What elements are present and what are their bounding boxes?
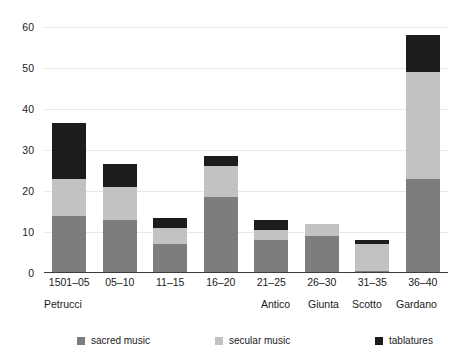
y-tick-label-0: 0 (28, 268, 34, 279)
bar-26-30[interactable] (305, 224, 339, 273)
bar-segment-tablature (52, 123, 86, 178)
bar-1501-05[interactable] (52, 123, 86, 273)
y-tick-label-40: 40 (22, 104, 34, 115)
x-tick-label-4: 21–25 (246, 276, 297, 288)
publisher-label-gardano: Gardano (396, 298, 437, 310)
bar-segment-sacred (305, 236, 339, 273)
bar-segment-sacred (204, 197, 238, 273)
bar-segment-secular (52, 179, 86, 216)
x-tick-label-5: 26–30 (297, 276, 348, 288)
x-tick-label-6: 31–35 (347, 276, 398, 288)
legend-swatch-icon (375, 337, 383, 345)
stacked-bar-chart: 0102030405060 1501–0505–1011–1516–2021–2… (0, 0, 467, 357)
y-tick-label-10: 10 (22, 227, 34, 238)
gridline-60 (44, 27, 448, 28)
bar-21-25[interactable] (254, 220, 288, 273)
publisher-label-petrucci: Petrucci (44, 298, 82, 310)
x-tick-label-7: 36–40 (398, 276, 449, 288)
legend-swatch-icon (215, 337, 223, 345)
x-tick-label-1: 05–10 (95, 276, 146, 288)
legend-item-tablatures[interactable]: tablatures (375, 335, 433, 346)
legend-label: secular music (229, 335, 290, 346)
bar-segment-secular (204, 166, 238, 197)
bar-segment-sacred (103, 220, 137, 273)
x-axis-line (44, 272, 448, 274)
bar-36-40[interactable] (406, 35, 440, 273)
x-tick-label-2: 11–15 (145, 276, 196, 288)
legend-label: sacred music (91, 335, 150, 346)
y-tick-label-20: 20 (22, 186, 34, 197)
bar-segment-tablature (103, 164, 137, 187)
legend-label: tablatures (389, 335, 433, 346)
bar-11-15[interactable] (153, 218, 187, 273)
y-tick-label-60: 60 (22, 22, 34, 33)
x-tick-label-3: 16–20 (196, 276, 247, 288)
publisher-label-antico: Antico (261, 298, 290, 310)
publisher-annotations: PetrucciAnticoGiuntaScottoGardano (0, 298, 467, 314)
bar-segment-sacred (406, 179, 440, 273)
gridline-50 (44, 68, 448, 69)
legend-item-sacred[interactable]: sacred music (77, 335, 150, 346)
bar-segment-secular (153, 228, 187, 244)
bar-segment-tablature (204, 156, 238, 166)
bar-31-35[interactable] (355, 240, 389, 273)
bar-segment-secular (254, 230, 288, 240)
bar-segment-tablature (254, 220, 288, 230)
publisher-label-giunta: Giunta (308, 298, 339, 310)
bar-segment-sacred (254, 240, 288, 273)
bar-segment-tablature (406, 35, 440, 72)
gridline-40 (44, 109, 448, 110)
bar-segment-sacred (153, 244, 187, 273)
x-axis-labels: 1501–0505–1011–1516–2021–2526–3031–3536–… (44, 276, 448, 292)
bar-segment-secular (355, 244, 389, 271)
bar-segment-tablature (153, 218, 187, 228)
publisher-label-scotto: Scotto (352, 298, 382, 310)
bar-segment-secular (305, 224, 339, 236)
x-tick-label-0: 1501–05 (44, 276, 95, 288)
bar-16-20[interactable] (204, 156, 238, 273)
bar-segment-secular (406, 72, 440, 179)
bar-segment-secular (103, 187, 137, 220)
gridline-30 (44, 150, 448, 151)
legend-swatch-icon (77, 337, 85, 345)
bar-05-10[interactable] (103, 164, 137, 273)
plot-area (44, 27, 448, 273)
y-tick-label-50: 50 (22, 63, 34, 74)
legend-item-secular[interactable]: secular music (215, 335, 290, 346)
bar-segment-sacred (52, 216, 86, 273)
y-tick-label-30: 30 (22, 145, 34, 156)
chart-legend: sacred musicsecular musictablatures (0, 335, 467, 351)
